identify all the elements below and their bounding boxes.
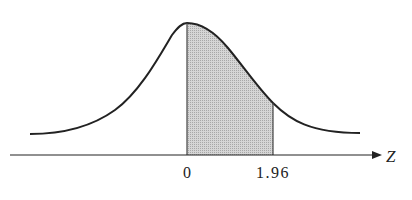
axis-label-z: Z: [386, 147, 396, 166]
normal-distribution-diagram: Z 0 1.96: [0, 0, 412, 200]
tick-label-zero: 0: [183, 164, 191, 181]
arrow-head-icon: [372, 151, 382, 159]
tick-label-196: 1.96: [256, 164, 290, 181]
